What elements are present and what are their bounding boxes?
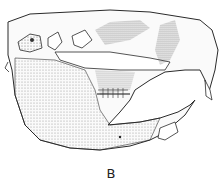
skull-illustration <box>0 0 222 160</box>
foramen <box>119 136 121 138</box>
figure-label: B <box>0 166 222 181</box>
